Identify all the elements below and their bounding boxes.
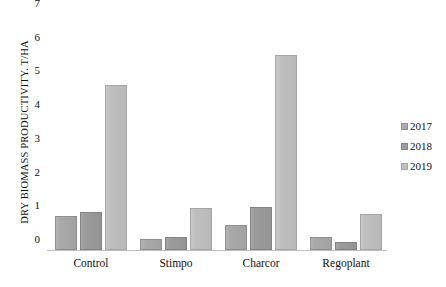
bar-group: [310, 14, 385, 250]
bar-group: [55, 14, 130, 250]
legend: 201720182019: [401, 116, 446, 176]
legend-item-label: 2018: [410, 141, 432, 152]
bar: [165, 237, 187, 250]
bar: [335, 242, 357, 250]
bar: [80, 212, 102, 250]
bar: [310, 237, 332, 250]
legend-item[interactable]: 2019: [401, 156, 446, 176]
legend-item-label: 2019: [410, 161, 432, 172]
x-axis-baseline: [47, 250, 387, 251]
bar: [140, 239, 162, 250]
y-tick-label: 7: [14, 0, 40, 9]
x-axis-category-label: Regoplant: [291, 256, 401, 270]
bar-group: [140, 14, 215, 250]
legend-swatch-icon: [401, 163, 408, 170]
legend-swatch-icon: [401, 123, 408, 130]
plot-area: 01234567: [47, 14, 387, 250]
y-tick-label: 6: [14, 31, 40, 42]
bar-chart-figure: DRY BIOMASS PRODUCTIVITY. T/HA 01234567 …: [0, 0, 446, 287]
y-tick-label: 1: [14, 200, 40, 211]
y-tick-label: 3: [14, 132, 40, 143]
legend-swatch-icon: [401, 143, 408, 150]
y-tick-label: 0: [14, 234, 40, 245]
legend-item[interactable]: 2017: [401, 116, 446, 136]
legend-item[interactable]: 2018: [401, 136, 446, 156]
bar: [360, 214, 382, 250]
bar: [275, 55, 297, 250]
bar-group: [225, 14, 300, 250]
y-tick-label: 5: [14, 65, 40, 76]
legend-item-label: 2017: [410, 121, 432, 132]
bar: [190, 208, 212, 250]
bar: [225, 225, 247, 250]
y-tick-label: 4: [14, 99, 40, 110]
bar: [250, 207, 272, 250]
bar: [105, 85, 127, 250]
bar: [55, 216, 77, 250]
y-tick-label: 2: [14, 166, 40, 177]
